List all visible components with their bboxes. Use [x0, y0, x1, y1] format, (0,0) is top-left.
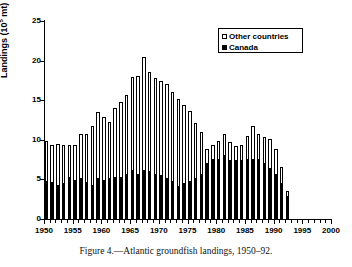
- bar-segment-canada-1982: [228, 161, 232, 219]
- x-tick-1959: [96, 219, 97, 223]
- bar-segment-other-countries-1971: [165, 84, 169, 179]
- bar-group-1957: [85, 21, 89, 219]
- bar-segment-other-countries-1982: [228, 142, 232, 161]
- bar-segment-canada-1985: [246, 160, 250, 219]
- x-tick-1962: [113, 219, 114, 223]
- x-tick-1957: [84, 219, 85, 223]
- x-tick-label-1955: 1955: [64, 226, 82, 236]
- x-tick-1995: [302, 219, 303, 224]
- x-tick-1998: [320, 219, 321, 223]
- legend-item-canada: Canada: [222, 42, 299, 52]
- bar-segment-canada-1972: [171, 182, 175, 219]
- bar-segment-other-countries-1963: [119, 102, 123, 178]
- bar-group-1959: [96, 21, 100, 219]
- legend-item-other-countries: Other countries: [222, 31, 299, 41]
- bar-group-1968: [148, 21, 152, 219]
- bar-segment-other-countries-1986: [251, 126, 255, 161]
- bar-segment-other-countries-1962: [113, 108, 117, 178]
- x-tick-1975: [188, 219, 189, 224]
- bar-segment-other-countries-1977: [200, 132, 204, 176]
- x-tick-1967: [142, 219, 143, 223]
- x-tick-1951: [50, 219, 51, 223]
- y-axis-title-main: Landings (10: [0, 22, 9, 78]
- x-tick-1988: [262, 219, 263, 223]
- x-tick-1966: [136, 219, 137, 223]
- bar-group-1962: [113, 21, 117, 219]
- x-tick-label-1960: 1960: [92, 226, 110, 236]
- bar-segment-other-countries-1965: [131, 77, 135, 170]
- bar-segment-canada-1988: [263, 164, 267, 219]
- bar-group-1955: [73, 21, 77, 219]
- x-tick-label-2000: 2000: [322, 226, 340, 236]
- bar-group-1972: [171, 21, 175, 219]
- bar-segment-other-countries-1959: [96, 112, 100, 179]
- bar-group-1970: [159, 21, 163, 219]
- bar-segment-other-countries-1972: [171, 92, 175, 182]
- x-tick-1987: [256, 219, 257, 223]
- legend-label-other-countries: Other countries: [229, 32, 289, 41]
- x-tick-1980: [216, 219, 217, 224]
- x-tick-1968: [147, 219, 148, 223]
- bar-segment-canada-1959: [96, 179, 100, 219]
- x-tick-label-1950: 1950: [35, 226, 53, 236]
- bar-segment-other-countries-1964: [125, 95, 129, 175]
- x-tick-1979: [210, 219, 211, 223]
- y-tick-label: 0: [37, 214, 41, 223]
- bar-segment-canada-1957: [85, 183, 89, 219]
- y-tick-label: 25: [32, 16, 41, 25]
- bar-segment-other-countries-1953: [62, 145, 66, 184]
- x-tick-1965: [130, 219, 131, 224]
- bar-segment-other-countries-1968: [148, 72, 152, 173]
- bar-segment-other-countries-1976: [194, 123, 198, 178]
- x-tick-label-1990: 1990: [265, 226, 283, 236]
- x-tick-label-1970: 1970: [150, 226, 168, 236]
- x-tick-1977: [199, 219, 200, 223]
- bar-group-1974: [182, 21, 186, 219]
- bar-group-1951: [50, 21, 54, 219]
- bar-segment-other-countries-1975: [188, 111, 192, 182]
- bar-segment-canada-1962: [113, 178, 117, 219]
- bar-segment-other-countries-1974: [182, 105, 186, 184]
- y-tick-label: 15: [32, 95, 41, 104]
- bar-group-1964: [125, 21, 129, 219]
- bar-segment-canada-1960: [102, 181, 106, 219]
- x-tick-label-1995: 1995: [293, 226, 311, 236]
- bar-segment-other-countries-1987: [257, 134, 261, 160]
- bar-segment-other-countries-1957: [85, 134, 89, 183]
- bar-segment-other-countries-1966: [136, 76, 140, 175]
- bar-segment-canada-1970: [159, 176, 163, 219]
- bar-segment-canada-1974: [182, 184, 186, 219]
- x-tick-2000: [331, 219, 332, 224]
- bar-segment-other-countries-1954: [68, 145, 72, 178]
- x-tick-1954: [67, 219, 68, 223]
- bar-group-1956: [79, 21, 83, 219]
- bar-segment-canada-1991: [280, 184, 284, 219]
- bar-group-1976: [194, 21, 198, 219]
- legend-label-canada: Canada: [229, 43, 258, 52]
- bar-group-1961: [108, 21, 112, 219]
- bar-segment-other-countries-1984: [240, 145, 244, 161]
- y-axis-title-tail: mt): [0, 3, 9, 20]
- bar-segment-other-countries-1991: [280, 167, 284, 184]
- bar-group-1979: [211, 21, 215, 219]
- bar-segment-other-countries-1979: [211, 145, 215, 161]
- bar-segment-other-countries-1960: [102, 117, 106, 181]
- bar-group-1958: [91, 21, 95, 219]
- bar-segment-canada-1961: [108, 179, 112, 219]
- bar-segment-canada-1952: [56, 186, 60, 219]
- y-tick-label: 20: [32, 56, 41, 65]
- x-tick-1974: [182, 219, 183, 223]
- legend-swatch-filled-square-icon: [222, 45, 227, 50]
- x-tick-1978: [205, 219, 206, 223]
- bar-segment-canada-1992: [286, 197, 290, 219]
- bar-segment-canada-1975: [188, 182, 192, 219]
- bar-segment-other-countries-1951: [50, 145, 54, 183]
- bar-segment-other-countries-1956: [79, 134, 83, 178]
- bar-segment-canada-1968: [148, 172, 152, 219]
- bar-segment-canada-1973: [177, 187, 181, 219]
- bar-segment-other-countries-1985: [246, 136, 250, 160]
- x-tick-1996: [308, 219, 309, 223]
- bar-segment-canada-1956: [79, 179, 83, 219]
- bar-segment-canada-1990: [274, 175, 278, 219]
- bar-segment-other-countries-1955: [73, 145, 77, 181]
